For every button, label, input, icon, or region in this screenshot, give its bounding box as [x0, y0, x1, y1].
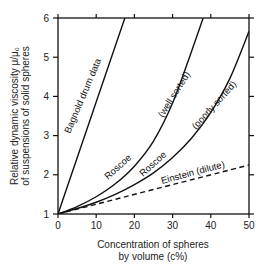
curve-label: Einstein (dilute): [160, 158, 226, 186]
y-tick-label: 2: [43, 169, 49, 180]
y-axis-title: Relative dynamic viscosity μ/μ₀: [9, 47, 20, 185]
x-tick-label: 20: [129, 220, 141, 231]
x-tick-label: 0: [55, 220, 61, 231]
x-tick-label: 40: [205, 220, 217, 231]
x-tick-label: 30: [167, 220, 179, 231]
y-tick-label: 6: [43, 13, 49, 24]
x-axis-title: Concentration of spheres: [97, 239, 209, 250]
curve-label: (well sorted): [155, 69, 192, 119]
plot-frame: [58, 18, 249, 214]
x-axis-title: by volume (c%): [119, 251, 188, 262]
curve-label: (poorly sorted): [189, 78, 238, 131]
y-axis-title: of suspensions of solid spheres: [20, 46, 31, 186]
y-tick-label: 3: [43, 130, 49, 141]
x-tick-label: 10: [91, 220, 103, 231]
x-tick-label: 50: [243, 220, 255, 231]
axis-labels: 01020304050123456Bagnold drum dataRoscoe…: [9, 13, 255, 263]
series-line: [58, 31, 249, 214]
y-tick-label: 1: [43, 209, 49, 220]
y-tick-label: 5: [43, 52, 49, 63]
y-tick-label: 4: [43, 91, 49, 102]
curve-label: Roscoe: [102, 152, 133, 182]
plot-area: [53, 14, 254, 218]
curve-label: Bagnold drum data: [62, 56, 104, 135]
viscosity-chart: 01020304050123456Bagnold drum dataRoscoe…: [0, 0, 265, 269]
